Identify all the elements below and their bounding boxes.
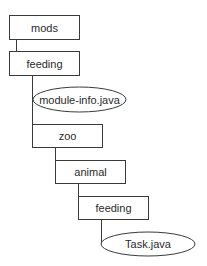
folder-node-mods: mods [10,16,80,40]
folder-node-zoo: zoo [33,125,103,148]
file-label-task-java: Task.java [125,238,172,250]
folder-node-animal: animal [56,161,126,184]
folder-label-mods: mods [31,22,58,34]
folder-node-feeding-module: feeding [10,52,80,76]
folder-label-feeding-package: feeding [95,202,131,214]
file-label-module-info: module-info.java [39,94,121,106]
folder-label-zoo: zoo [59,130,77,142]
file-node-module-info: module-info.java [33,87,126,112]
folder-label-feeding-module: feeding [26,58,62,70]
file-node-task-java: Task.java [101,232,195,256]
directory-tree-diagram: mods feeding module-info.java zoo animal… [0,0,207,266]
folder-label-animal: animal [74,166,106,178]
folder-node-feeding-package: feeding [79,197,149,220]
